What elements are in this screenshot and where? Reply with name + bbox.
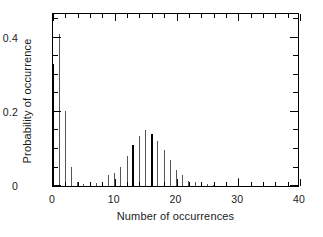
- chart-stem: [96, 183, 97, 186]
- chart-stem: [170, 160, 171, 186]
- x-axis-tick: [90, 182, 91, 186]
- x-axis-tick-top: [288, 14, 289, 18]
- x-axis-tick-top: [238, 14, 239, 21]
- x-axis-tick-top: [201, 14, 202, 18]
- chart-stem: [108, 175, 109, 186]
- y-axis-tick-right: [293, 55, 298, 56]
- chart-stem: [157, 141, 158, 186]
- y-axis-tick-right: [293, 92, 298, 93]
- x-axis-tick: [164, 182, 165, 186]
- x-axis-tick: [214, 182, 215, 186]
- chart-stem: [65, 111, 66, 186]
- chart-stem: [120, 167, 121, 186]
- x-axis-tick-top: [226, 14, 227, 18]
- plot-area: [53, 14, 298, 186]
- y-axis-tick: [53, 148, 58, 149]
- x-axis-tick-top: [78, 14, 79, 18]
- x-axis-tick-top: [139, 14, 140, 18]
- chart-stem: [53, 64, 54, 186]
- y-axis-tick: [53, 185, 61, 186]
- x-axis-tick-top: [115, 14, 116, 21]
- x-axis-tick-top: [65, 14, 66, 18]
- chart-stem: [182, 175, 183, 186]
- y-axis-tick-right: [290, 37, 298, 38]
- y-axis-tick-right: [293, 148, 298, 149]
- chart-stem: [164, 150, 165, 186]
- x-axis-tick: [115, 179, 116, 186]
- y-axis-tick-right: [290, 111, 298, 112]
- chart-figure: 010203040 00.20.4 Number of occurrences …: [0, 0, 323, 237]
- y-axis-tick-right: [290, 185, 298, 186]
- y-axis-tick-right: [293, 167, 298, 168]
- chart-stem: [195, 182, 196, 186]
- y-axis-tick-right: [293, 129, 298, 130]
- y-axis-tick-right: [293, 18, 298, 19]
- y-axis-tick: [53, 37, 61, 38]
- y-axis-tick: [53, 74, 58, 75]
- x-tick-label: 0: [32, 193, 72, 205]
- x-axis-tick: [78, 182, 79, 186]
- x-axis-tick-top: [275, 14, 276, 18]
- y-axis-tick: [53, 18, 58, 19]
- x-axis-tick-top: [102, 14, 103, 18]
- y-axis-tick: [53, 92, 58, 93]
- chart-stem: [132, 145, 134, 186]
- x-axis-tick: [127, 182, 128, 186]
- x-axis-tick-top: [214, 14, 215, 18]
- y-axis-title: Probability of occurrence: [21, 1, 33, 201]
- chart-stem: [207, 184, 208, 186]
- y-tick-label: 0: [0, 180, 18, 192]
- x-axis-tick: [288, 182, 289, 186]
- x-axis-tick: [139, 182, 140, 186]
- x-axis-tick-top: [263, 14, 264, 18]
- x-axis-tick-top: [127, 14, 128, 18]
- y-axis-tick: [53, 55, 58, 56]
- x-axis-tick-top: [164, 14, 165, 18]
- x-axis-tick: [177, 179, 178, 186]
- y-tick-label: 0.2: [0, 106, 18, 118]
- x-axis-tick: [152, 182, 153, 186]
- chart-stem: [139, 136, 140, 186]
- x-tick-label: 40: [279, 193, 319, 205]
- chart-stem: [83, 184, 84, 186]
- x-axis-tick: [300, 179, 301, 186]
- x-axis-tick: [189, 182, 190, 186]
- x-axis-tick-top: [152, 14, 153, 18]
- x-axis-tick: [251, 182, 252, 186]
- x-tick-label: 30: [217, 193, 257, 205]
- y-tick-label: 0.4: [0, 32, 18, 44]
- y-axis-tick-right: [293, 74, 298, 75]
- chart-stem: [71, 167, 72, 186]
- y-axis-tick: [53, 111, 61, 112]
- x-axis-title: Number of occurrences: [52, 210, 299, 222]
- y-axis-tick: [53, 129, 58, 130]
- x-axis-tick: [226, 182, 227, 186]
- x-axis-tick-top: [300, 14, 301, 21]
- chart-stem: [145, 130, 146, 186]
- x-axis-tick-top: [90, 14, 91, 18]
- x-axis-tick: [263, 182, 264, 186]
- x-axis-tick: [65, 182, 66, 186]
- y-axis-tick: [53, 167, 58, 168]
- x-axis-tick-top: [177, 14, 178, 21]
- chart-stem: [151, 134, 153, 186]
- x-tick-label: 20: [156, 193, 196, 205]
- x-axis-tick: [238, 179, 239, 186]
- x-axis-tick: [201, 182, 202, 186]
- x-axis-tick-top: [189, 14, 190, 18]
- x-axis-tick-top: [251, 14, 252, 18]
- x-axis-tick: [102, 182, 103, 186]
- plot-frame: [52, 13, 299, 187]
- x-tick-label: 10: [94, 193, 134, 205]
- x-axis-tick: [275, 182, 276, 186]
